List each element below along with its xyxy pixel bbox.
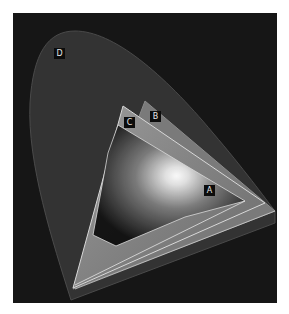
gamut-label-b: B (150, 111, 161, 122)
gamut-label-d: D (54, 48, 65, 59)
diagram-panel: D C B A (13, 13, 277, 303)
gamut-label-c: C (124, 117, 135, 128)
gamut-diagram (13, 13, 277, 303)
gamut-label-a: A (204, 185, 215, 196)
